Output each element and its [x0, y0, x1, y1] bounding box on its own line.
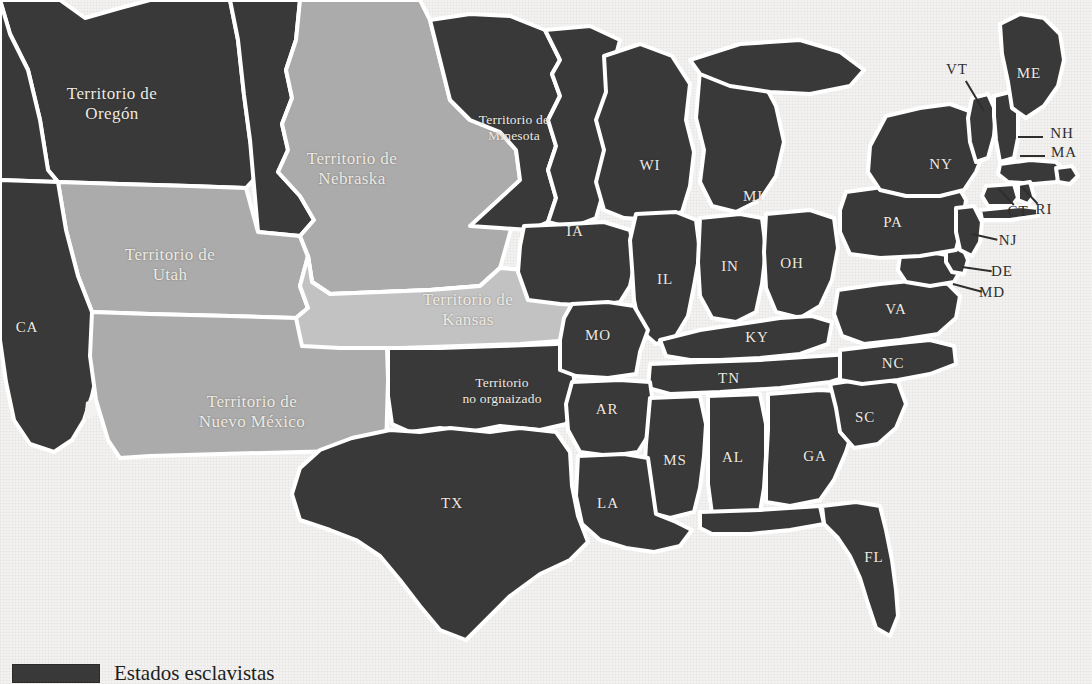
region-ohio — [764, 210, 838, 318]
region-missouri — [560, 302, 648, 378]
region-texas — [292, 428, 588, 640]
historical-us-map: .s { fill:#393939; stroke:#ffffff; strok… — [0, 0, 1092, 684]
region-vermont — [968, 94, 996, 162]
leader-line-ma — [1020, 155, 1045, 157]
region-unorganized-territory — [388, 342, 576, 432]
map-legend: Estados esclavistas — [12, 663, 274, 684]
region-massachusetts-cape — [1056, 166, 1078, 184]
region-wisconsin — [596, 44, 694, 220]
region-florida-panhandle — [700, 506, 824, 534]
legend-swatch-slave-states — [12, 664, 100, 683]
region-maine — [1000, 14, 1064, 118]
region-florida — [822, 502, 898, 636]
region-iowa — [518, 222, 636, 306]
region-new-jersey — [956, 206, 982, 256]
region-indiana — [698, 214, 766, 322]
region-virginia — [834, 280, 960, 344]
map-geometry: .s { fill:#393939; stroke:#ffffff; strok… — [0, 0, 1092, 684]
region-north-carolina — [840, 340, 956, 384]
region-long-island — [980, 206, 1038, 220]
leader-line-nh — [1018, 136, 1043, 138]
region-arkansas — [566, 380, 654, 456]
region-alabama — [708, 394, 766, 518]
legend-label-slave-states: Estados esclavistas — [114, 663, 274, 684]
